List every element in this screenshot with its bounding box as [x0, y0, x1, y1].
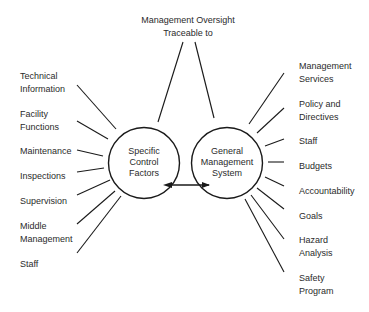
left-item-supervision: Supervision [20, 195, 67, 208]
right-item-staff: Staff [299, 135, 317, 148]
left-item-inspections: Inspections [20, 170, 66, 183]
right-item-accountability: Accountability [299, 185, 355, 198]
left-item-maintenance: Maintenance [20, 145, 72, 158]
right-item-policy-and-directives: Policy and Directives [299, 98, 341, 123]
right-item-management-services: Management Services [299, 60, 352, 85]
left-item-facility-functions: Facility Functions [20, 108, 59, 133]
top-connectors [158, 42, 214, 122]
top-label-line1: Management Oversight [108, 14, 268, 27]
right-item-hazard-analysis: Hazard Analysis [299, 234, 333, 259]
left-item-middle-management: Middle Management [20, 220, 73, 245]
management-oversight-diagram: Management Oversight Traceable to Specif… [0, 0, 369, 312]
left-item-technical-information: Technical Information [20, 70, 65, 95]
top-label-line2: Traceable to [108, 27, 268, 40]
general-management-system-label: General Management System [192, 146, 262, 179]
right-item-safety-program: Safety Program [299, 272, 334, 297]
right-item-goals: Goals [299, 210, 323, 223]
specific-control-factors-label: Specific Control Factors [109, 146, 179, 179]
left-item-staff: Staff [20, 258, 38, 271]
right-item-budgets: Budgets [299, 160, 332, 173]
top-label: Management Oversight Traceable to [108, 14, 268, 40]
